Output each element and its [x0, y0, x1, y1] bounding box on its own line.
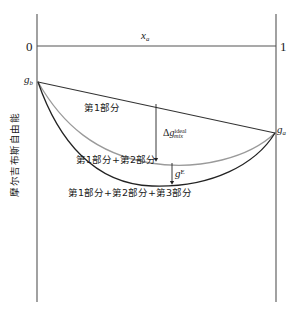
- x-axis-tick-zero: 0: [26, 40, 33, 53]
- ideal-mixing-label: Δgidealmix: [163, 128, 183, 139]
- curve-part1-part2-part3: [38, 82, 275, 186]
- endpoint-label-ga: ga: [277, 124, 286, 137]
- annotation-part1-part2-part3: 第1部分+第2部分+第3部分: [68, 188, 192, 198]
- annotation-part1-part2: 第1部分+第2部分: [76, 155, 156, 165]
- excess-energy-label: gE: [175, 168, 185, 179]
- y-axis-label: 摩尔吉布斯自由能: [10, 100, 20, 210]
- curve-part1-part2: [38, 82, 275, 165]
- endpoint-label-gb: gb: [24, 74, 33, 87]
- x-axis-tick-one: 1: [280, 40, 287, 53]
- curve-part1: [38, 82, 275, 133]
- gibbs-free-energy-diagram: xa 0 1 gb ga Δgidealmix gE 第1部分 第1部分+第2部…: [0, 0, 294, 315]
- x-axis-label: xa: [141, 30, 149, 43]
- annotation-part1: 第1部分: [84, 103, 120, 113]
